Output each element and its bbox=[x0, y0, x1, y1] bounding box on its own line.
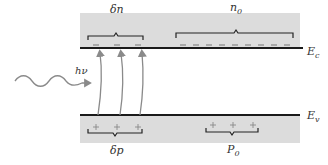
delta-n-label: δn bbox=[110, 4, 124, 15]
n0-sub: 0 bbox=[237, 7, 242, 16]
ec-label: Ec bbox=[307, 46, 320, 60]
p0-sub: 0 bbox=[234, 149, 239, 158]
p0-label: P0 bbox=[227, 144, 240, 158]
ec-sub: c bbox=[315, 51, 319, 60]
ec-main: E bbox=[307, 45, 315, 58]
delta-p-label: δp bbox=[110, 145, 124, 156]
ev-main: E bbox=[307, 109, 315, 122]
ev-sub: v bbox=[315, 115, 320, 124]
n0-label: n0 bbox=[230, 2, 242, 16]
ev-label: Ev bbox=[307, 110, 320, 124]
photon-label: hν bbox=[75, 66, 88, 76]
valence-band-region bbox=[80, 115, 300, 143]
photon-wave-icon bbox=[15, 76, 88, 87]
conduction-band-region bbox=[80, 13, 300, 48]
band-diagram bbox=[0, 0, 328, 165]
excitation-arrows bbox=[98, 53, 143, 115]
